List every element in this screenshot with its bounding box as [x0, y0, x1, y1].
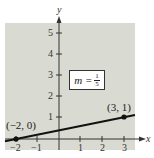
point-a-marker: [13, 136, 18, 141]
slope-annotation: m = 1 5: [69, 70, 105, 90]
slope-fraction: 1 5: [94, 73, 100, 88]
x-tick-label: −2: [10, 142, 21, 153]
x-axis-arrow-icon: [139, 137, 146, 142]
point-a-label: (−2, 0): [6, 119, 36, 132]
slope-variable: m =: [74, 74, 92, 86]
x-tick-label: 2: [100, 142, 105, 153]
x-tick-label: −1: [31, 142, 42, 153]
point-b-label: (3, 1): [107, 101, 131, 114]
y-tick-label: 5: [48, 27, 53, 38]
point-b-marker: [121, 114, 126, 119]
slope-denominator: 5: [95, 81, 99, 88]
x-axis-label: x: [145, 133, 151, 144]
y-tick-label: 1: [48, 111, 53, 122]
x-tick-label: 1: [78, 142, 83, 153]
y-axis-arrow-icon: [57, 16, 62, 23]
y-tick-label: 2: [48, 90, 53, 101]
y-tick-label: 4: [48, 48, 53, 59]
y-axis-label: y: [56, 4, 62, 15]
y-tick-label: 3: [48, 69, 53, 80]
x-tick-label: 3: [122, 142, 127, 153]
